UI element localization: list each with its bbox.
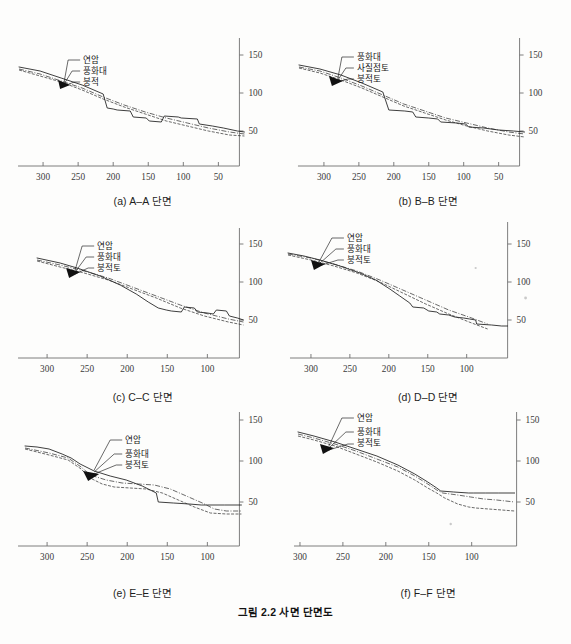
panel-f-label-bungjeokto: 붕적토	[356, 437, 380, 448]
panel-a-xtick-200: 200	[106, 172, 120, 182]
panel-c-y-ticks: 50 100 150	[239, 239, 262, 325]
panel-e-x-ticks: 300 250 200 150 100	[40, 542, 215, 562]
panel-d-y-ticks: 50 100 150	[507, 239, 530, 325]
panel-a-label-punghwadae: 풍화대	[83, 66, 107, 76]
panel-a-svg: 300 250 200 150 100 50 50 100 150	[0, 14, 286, 210]
panel-f-xtick-300: 300	[293, 552, 307, 562]
panel-f-ytick-100: 100	[525, 456, 539, 466]
panel-b-xtick-100: 100	[456, 172, 470, 182]
panel-f-x-ticks: 300 250 200 150 100	[293, 542, 479, 562]
panel-d-ytick-100: 100	[516, 277, 530, 287]
panel-c-ytick-150: 150	[248, 239, 262, 249]
panel-e-label-bungjeokto: 붕적토	[125, 459, 149, 470]
panel-a-xtick-300: 300	[36, 172, 50, 182]
panel-c-xtick-150: 150	[160, 364, 174, 374]
panel-a-annotations: 연암 풍화대 붕적	[58, 54, 107, 89]
panel-e-caption: (e) E–E 단면	[0, 585, 286, 600]
panel-c-xtick-200: 200	[120, 364, 134, 374]
panel-a-surface-line	[19, 67, 244, 132]
panel-b-label-sajiljeomto: 사질점토	[356, 62, 388, 73]
panel-e-label-punghwadae: 풍화대	[125, 449, 149, 459]
panel-f-surface-line	[297, 432, 514, 493]
chart-grid: 300 250 200 150 100 50 50 100 150	[0, 14, 571, 602]
panel-a-xtick-250: 250	[71, 172, 85, 182]
chart-panel-f: 300 250 200 150 100 50 100 150	[286, 406, 571, 602]
panel-f-svg: 300 250 200 150 100 50 100 150	[286, 406, 571, 602]
panel-f-xtick-150: 150	[421, 552, 435, 562]
panel-e-label-yeonam: 연암	[125, 434, 141, 445]
panel-b-caption: (b) B–B 단면	[286, 193, 571, 208]
panel-e-xtick-200: 200	[120, 552, 134, 562]
panel-a-x-ticks: 300 250 200 150 100 50	[36, 162, 223, 182]
panel-b-xtick-50: 50	[493, 172, 503, 182]
panel-d-caption: (d) D–D 단면	[286, 389, 571, 404]
panel-d-xtick-100: 100	[459, 364, 473, 374]
panel-e-ytick-150: 150	[248, 415, 262, 425]
panel-e-xtick-150: 150	[160, 552, 174, 562]
chart-panel-e: 300 250 200 150 100 50 100 150	[0, 406, 286, 602]
scan-speck	[524, 297, 527, 300]
panel-d-xtick-150: 150	[420, 364, 434, 374]
panel-f-label-punghwadae: 풍화대	[356, 427, 380, 437]
panel-b-label-punghwadae: 풍화대	[356, 52, 380, 62]
panel-a-xtick-50: 50	[214, 172, 224, 182]
panel-b-label-bungjeokto: 붕적토	[356, 73, 380, 84]
panel-e-xtick-100: 100	[200, 552, 214, 562]
panel-f-label-yeonam: 연암	[356, 412, 372, 423]
panel-c-ytick-50: 50	[248, 315, 258, 325]
panel-d-ytick-150: 150	[516, 239, 530, 249]
panel-d-annotations: 연암 풍화대 붕적토	[310, 232, 370, 270]
panel-c-svg: 300 250 200 150 100 50 100 150	[0, 210, 286, 406]
chart-panel-b: 300 250 200 150 100 50 50 100 150	[286, 14, 571, 210]
scan-speck	[449, 523, 451, 525]
panel-b-svg: 300 250 200 150 100 50 50 100 150	[286, 14, 571, 210]
panel-e-ytick-100: 100	[248, 456, 262, 466]
panel-a-weathered-line	[19, 69, 244, 134]
panel-a-xtick-100: 100	[176, 172, 190, 182]
panel-e-y-ticks: 50 100 150	[239, 415, 262, 507]
chart-panel-d: 300 250 200 150 100 50 100 150	[286, 210, 571, 406]
panel-c-annotations: 연암 풍화대 붕적토	[66, 240, 121, 278]
panel-b-xtick-300: 300	[316, 172, 330, 182]
panel-f-weathered-line	[297, 434, 514, 502]
panel-b-xtick-250: 250	[351, 172, 365, 182]
chart-panel-a: 300 250 200 150 100 50 50 100 150	[0, 14, 286, 210]
chart-panel-c: 300 250 200 150 100 50 100 150	[0, 210, 286, 406]
panel-a-label-bungjeok: 붕적	[83, 76, 99, 87]
panel-f-y-ticks: 50 100 150	[516, 415, 539, 507]
panel-a-ytick-150: 150	[248, 50, 262, 60]
panel-d-xtick-200: 200	[381, 364, 395, 374]
panel-b-y-ticks: 50 100 150	[519, 50, 542, 136]
panel-f-annotations: 연암 풍화대 붕적토	[319, 412, 380, 454]
panel-c-caption: (c) C–C 단면	[0, 389, 286, 404]
panel-c-xtick-250: 250	[80, 364, 94, 374]
panel-f-ytick-50: 50	[525, 497, 535, 507]
figure-page: 300 250 200 150 100 50 50 100 150	[0, 0, 571, 644]
panel-e-xtick-250: 250	[80, 552, 94, 562]
panel-d-svg: 300 250 200 150 100 50 100 150	[286, 210, 571, 406]
panel-c-ytick-100: 100	[248, 277, 262, 287]
figure-caption: 그림 2.2 사면 단면도	[0, 604, 571, 619]
panel-b-ytick-150: 150	[528, 50, 542, 60]
panel-c-xtick-300: 300	[40, 364, 54, 374]
panel-b-annotations: 풍화대 사질점토 붕적토	[328, 52, 388, 86]
scan-speck	[474, 267, 476, 269]
panel-b-sandyclay-line	[298, 67, 524, 134]
panel-b-ytick-50: 50	[528, 126, 538, 136]
panel-e-annotations: 연암 풍화대 붕적토	[83, 434, 149, 481]
panel-f-xtick-250: 250	[335, 552, 349, 562]
panel-a-caption: (a) A–A 단면	[0, 193, 286, 208]
panel-b-x-ticks: 300 250 200 150 100 50	[316, 162, 503, 182]
panel-a-label-yeonam: 연암	[83, 54, 99, 65]
panel-f-ytick-150: 150	[525, 415, 539, 425]
panel-c-label-yeonam: 연암	[97, 240, 113, 251]
panel-d-xtick-250: 250	[342, 364, 356, 374]
panel-d-label-punghwadae: 풍화대	[346, 244, 370, 254]
panel-b-xtick-150: 150	[421, 172, 435, 182]
panel-e-svg: 300 250 200 150 100 50 100 150	[0, 406, 286, 602]
panel-f-xtick-200: 200	[378, 552, 392, 562]
panel-d-xtick-300: 300	[304, 364, 318, 374]
panel-b-ytick-100: 100	[528, 88, 542, 98]
panel-a-ytick-50: 50	[248, 126, 258, 136]
panel-e-xtick-300: 300	[40, 552, 54, 562]
